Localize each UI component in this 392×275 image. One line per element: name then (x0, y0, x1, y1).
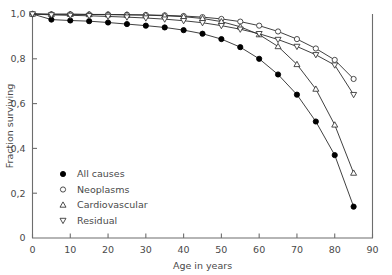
data-point-marker (257, 56, 262, 61)
data-point-marker (332, 122, 338, 127)
x-tick-label: 40 (178, 244, 190, 255)
chart-canvas: 010203040506070809000,20,40,60,81,0 All … (0, 0, 392, 275)
x-tick-label: 70 (291, 244, 303, 255)
y-tick-label: 0 (19, 232, 25, 243)
data-point-marker (313, 119, 318, 124)
data-point-marker (60, 202, 66, 207)
data-point-marker (60, 171, 65, 176)
data-point-marker (294, 92, 299, 97)
y-tick-label: 0,8 (10, 53, 25, 64)
x-tick-label: 60 (253, 244, 265, 255)
data-point-marker (124, 21, 129, 26)
data-point-marker (275, 29, 280, 34)
x-tick-label: 30 (140, 244, 152, 255)
y-tick-label: 1,0 (10, 8, 25, 19)
x-tick-label: 80 (329, 244, 341, 255)
series-all-causes (30, 11, 356, 209)
data-point-marker (332, 63, 338, 68)
data-point-marker (238, 45, 243, 50)
data-point-marker (351, 92, 357, 97)
y-tick-label: 0,2 (10, 188, 25, 199)
legend-item-residual: Residual (60, 215, 117, 226)
data-point-marker (143, 23, 148, 28)
data-point-marker (162, 25, 167, 30)
legend-item-neoplasms: Neoplasms (60, 184, 129, 195)
data-point-marker (105, 20, 110, 25)
x-tick-label: 90 (366, 244, 378, 255)
series-line (33, 14, 354, 95)
series-residual (30, 12, 357, 98)
data-point-marker (275, 43, 281, 48)
x-tick-label: 50 (215, 244, 227, 255)
x-axis-title: Age in years (173, 260, 232, 271)
data-point-marker (351, 76, 356, 81)
data-point-marker (313, 53, 319, 58)
legend-label: Residual (77, 215, 117, 226)
data-point-marker (200, 31, 205, 36)
survival-curve-figure: 010203040506070809000,20,40,60,81,0 All … (0, 0, 392, 275)
x-tick-label: 0 (29, 244, 35, 255)
x-tick-label: 10 (64, 244, 76, 255)
legend-item-all-causes: All causes (60, 168, 124, 179)
data-point-marker (275, 72, 280, 77)
series-line (33, 14, 354, 173)
chart-legend: All causesNeoplasmsCardiovascularResidua… (60, 168, 148, 226)
series-cardiovascular (30, 11, 357, 175)
data-point-marker (60, 218, 66, 223)
legend-label: Cardiovascular (77, 199, 148, 210)
data-point-marker (351, 170, 357, 175)
y-axis-title: Fraction surviving (4, 84, 15, 168)
data-series (30, 11, 357, 209)
data-point-marker (257, 23, 262, 28)
data-point-marker (294, 36, 299, 41)
data-point-marker (60, 187, 65, 192)
data-point-marker (181, 28, 186, 33)
data-point-marker (219, 36, 224, 41)
data-point-marker (332, 57, 337, 62)
legend-label: All causes (77, 168, 125, 179)
series-line (33, 14, 354, 79)
data-point-marker (351, 204, 356, 209)
data-point-marker (332, 153, 337, 158)
legend-item-cardiovascular: Cardiovascular (60, 199, 148, 210)
data-point-marker (313, 46, 318, 51)
x-tick-label: 20 (102, 244, 114, 255)
legend-label: Neoplasms (77, 184, 129, 195)
